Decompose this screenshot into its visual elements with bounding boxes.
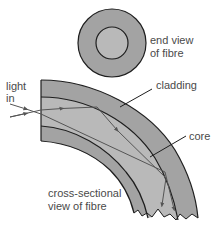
cross-section-label-2: view of fibre — [48, 200, 107, 212]
cladding-leader-line — [120, 89, 152, 107]
end-view-label-1: end view — [150, 34, 193, 46]
end-view-core — [96, 27, 128, 59]
ray-b-arrow-1 — [10, 114, 26, 118]
core-label: core — [189, 130, 210, 142]
cross-section-fibre — [41, 80, 198, 220]
light-in-label-2: in — [6, 92, 15, 104]
cladding-label: cladding — [156, 79, 197, 91]
light-in-label-1: light — [6, 80, 26, 92]
end-view-fibre — [78, 9, 146, 77]
end-view-label-2: of fibre — [150, 47, 184, 59]
cross-section-label-1: cross-sectional — [48, 187, 121, 199]
ray-a-arrow-1 — [10, 104, 26, 109]
